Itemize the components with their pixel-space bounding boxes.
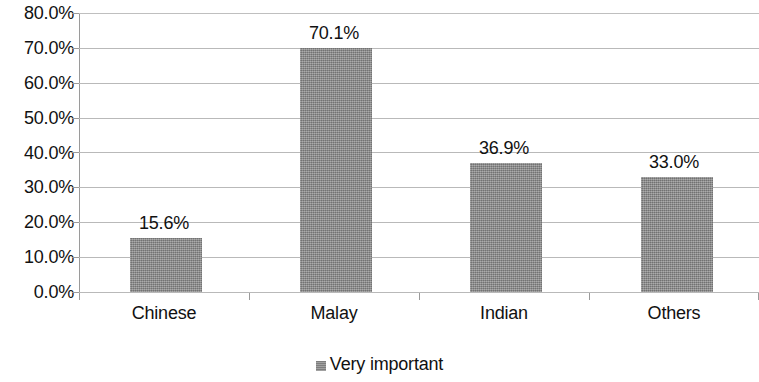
bar-malay <box>300 48 372 292</box>
bar-chinese <box>130 238 202 292</box>
data-label-malay: 70.1% <box>249 24 419 42</box>
bar-indian <box>470 163 542 292</box>
y-axis-tick-label-60: 60.0% <box>0 74 74 92</box>
x-axis-tick-mark-2 <box>419 292 420 300</box>
x-axis-category-label-chinese: Chinese <box>79 303 249 323</box>
x-axis-category-label-malay: Malay <box>249 303 419 323</box>
data-label-indian: 36.9% <box>419 139 589 157</box>
gridline-0 <box>79 292 759 293</box>
x-axis-category-label-indian: Indian <box>419 303 589 323</box>
x-axis-category-label-others: Others <box>589 303 759 323</box>
y-axis-tick-label-70: 70.0% <box>0 39 74 57</box>
legend-swatch-icon <box>316 361 326 371</box>
gridline-70 <box>79 48 759 49</box>
gridline-60 <box>79 83 759 84</box>
y-axis-tick-label-40: 40.0% <box>0 144 74 162</box>
data-label-others: 33.0% <box>589 153 759 171</box>
y-axis-tick-label-10: 10.0% <box>0 248 74 266</box>
x-axis-tick-mark-1 <box>249 292 250 300</box>
y-axis-tick-label-50: 50.0% <box>0 109 74 127</box>
gridline-80 <box>79 13 759 14</box>
gridline-50 <box>79 118 759 119</box>
bar-chart: 80.0% 70.0% 60.0% 50.0% 40.0% 30.0% 20.0… <box>0 0 759 382</box>
y-axis-tick-label-20: 20.0% <box>0 213 74 231</box>
data-label-chinese: 15.6% <box>79 214 249 232</box>
y-axis-tick-label-80: 80.0% <box>0 4 74 22</box>
y-axis-tick-label-30: 30.0% <box>0 178 74 196</box>
x-axis-tick-mark-0 <box>79 292 80 300</box>
legend-label-very-important: Very important <box>330 354 443 374</box>
chart-legend: Very important <box>0 354 759 374</box>
bar-others <box>641 177 713 292</box>
y-axis-tick-label-0: 0.0% <box>0 283 74 301</box>
x-axis-tick-mark-3 <box>589 292 590 300</box>
